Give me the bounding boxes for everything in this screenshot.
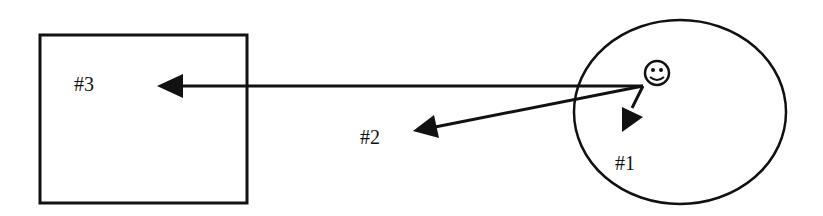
arrow-to-1 [622,86,643,132]
diagram-canvas [0,0,823,216]
arrow-to-2 [413,86,643,138]
label-2: #2 [360,126,380,149]
box-region [40,35,247,203]
arrow-to-3 [157,74,643,98]
circle-region [574,20,786,204]
label-3: #3 [74,73,94,96]
smiley-face-icon [645,61,669,85]
label-1: #1 [615,152,635,175]
